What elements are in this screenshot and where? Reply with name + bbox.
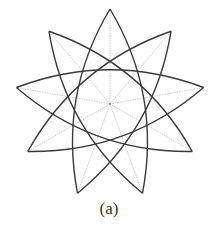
- star-figure: [0, 0, 218, 228]
- star-arc: [110, 9, 148, 193]
- guide-line: [110, 104, 192, 152]
- guide-line: [28, 104, 110, 152]
- star-arc: [72, 9, 110, 193]
- center-point: [109, 103, 111, 105]
- radial-guide-lines: [16, 9, 203, 193]
- figure-caption: (a): [0, 199, 218, 219]
